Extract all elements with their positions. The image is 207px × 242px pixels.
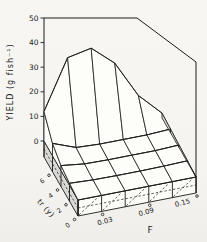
tr-tick-marker (48, 174, 51, 177)
f-tick-label: 0.09 (138, 206, 155, 218)
f-tick-marker (196, 195, 199, 198)
yield-axis-title: YIELD (g fish⁻¹) (6, 43, 15, 121)
yield-tick-label: 50 (29, 14, 39, 23)
tr-tick-marker (56, 189, 59, 192)
tr-tick-label: 2 (55, 206, 63, 215)
yield-tick-label: 30 (29, 63, 39, 72)
tr-tick-label: 4 (47, 191, 55, 200)
tr-tick-marker (65, 203, 68, 206)
f-tick-label: 0.03 (97, 216, 114, 228)
f-axis-title: F (147, 225, 152, 235)
tr-tick-marker (73, 218, 76, 221)
tr-tick-label: 6 (38, 177, 46, 186)
yield-tick-label: 10 (29, 112, 39, 121)
f-tick-label: 0.15 (174, 197, 191, 209)
figure-3d-yield-plot: 5040302010064200.030.090.15YIELD (g fish… (0, 0, 207, 242)
f-tick-marker (101, 213, 104, 216)
tr-tick-label: 0 (64, 221, 72, 230)
plot-svg: 5040302010064200.030.090.15YIELD (g fish… (0, 0, 207, 242)
yield-tick-label: 20 (29, 87, 39, 96)
tr-axis-title: tr (y) (35, 197, 56, 219)
yield-tick-label: 0 (34, 137, 39, 146)
yield-tick-label: 40 (29, 38, 39, 47)
